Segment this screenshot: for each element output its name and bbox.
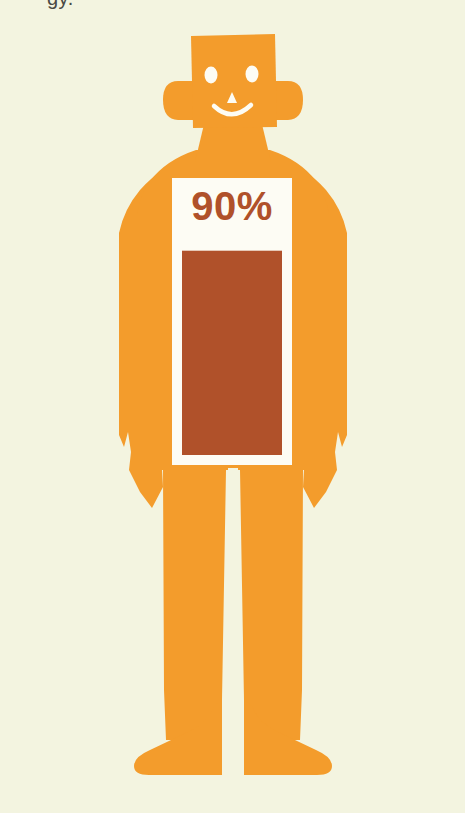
- eye-right-icon: [246, 66, 259, 83]
- leg-left-icon: [163, 470, 226, 740]
- eye-left-icon: [205, 67, 218, 84]
- person-infographic-svg: 90%: [0, 0, 465, 813]
- illustration-canvas: 90% gy.: [0, 0, 465, 813]
- bottom-page-margin: [0, 813, 465, 827]
- leg-right-icon: [240, 470, 303, 740]
- ear-left-icon: [163, 81, 196, 120]
- stat-value-label: 90%: [191, 184, 273, 228]
- stat-bar-fill: [182, 251, 282, 455]
- screenshot-stage: 90% gy.: [0, 0, 465, 827]
